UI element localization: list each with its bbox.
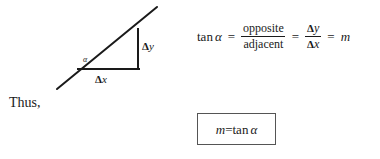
fraction-denominator-adjacent: adjacent: [241, 36, 285, 51]
equals-sign-3: =: [327, 30, 334, 43]
eq-delta-y-var: y: [314, 21, 319, 35]
fraction-denominator-delta-x: Δx: [305, 36, 321, 51]
boxed-slope-formula: m=tanα: [197, 113, 276, 145]
delta-x-label: Δx: [95, 74, 107, 85]
tan-operator: tan: [197, 30, 213, 43]
delta-symbol-x: Δ: [95, 73, 102, 85]
fraction-numerator-opposite: opposite: [241, 22, 286, 36]
equals-sign-2: =: [292, 30, 299, 43]
delta-y-over-delta-x-fraction: Δy Δx: [305, 22, 321, 52]
triangle-svg: [0, 0, 190, 105]
slope-tangent-figure: Δy Δx α Thus, tan α = opposite adjacent …: [0, 0, 380, 159]
thus-text: Thus,: [9, 95, 41, 111]
delta-y-label: Δy: [142, 41, 154, 52]
triangle-diagram: Δy Δx α: [0, 0, 190, 105]
eq-delta-symbol-x: Δ: [307, 38, 314, 50]
equation-alpha: α: [215, 30, 222, 43]
eq-delta-x-var: x: [314, 37, 319, 51]
boxed-tan-operator: tan: [233, 122, 249, 137]
equals-sign-1: =: [228, 30, 235, 43]
delta-symbol-y: Δ: [142, 40, 149, 52]
tangent-equation: tan α = opposite adjacent = Δy Δx = m: [197, 22, 350, 52]
opposite-over-adjacent-fraction: opposite adjacent: [241, 22, 286, 52]
fraction-numerator-delta-y: Δy: [305, 22, 321, 36]
equation-result-m: m: [341, 30, 350, 43]
eq-delta-symbol-y: Δ: [307, 22, 314, 34]
boxed-formula-content: m=tanα: [216, 123, 257, 136]
delta-y-var: y: [149, 40, 154, 52]
delta-x-var: x: [102, 73, 107, 85]
boxed-alpha-symbol: α: [250, 122, 257, 137]
angle-alpha-label: α: [83, 56, 87, 64]
boxed-m-symbol: m: [216, 122, 225, 137]
boxed-equals-sign: =: [225, 122, 232, 137]
